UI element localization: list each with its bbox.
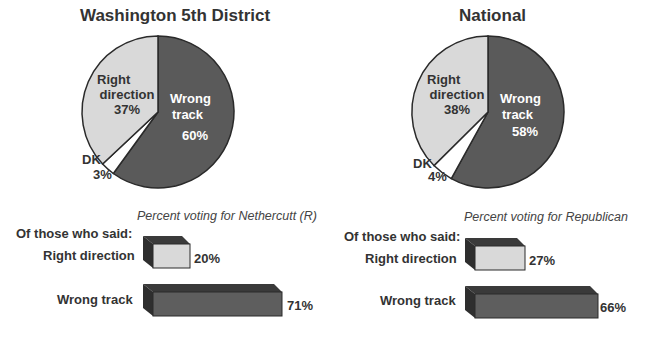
right-pie-wrong-label-1: Wrong (500, 91, 541, 106)
left-pie-dk-label: DK (82, 152, 101, 167)
pie-right (412, 36, 564, 188)
right-pie-right-label-2: direction (429, 87, 485, 102)
bar-right-right-top (465, 238, 525, 246)
left-pie-right-value: 37% (107, 102, 147, 117)
bar-left-wrong-front (153, 292, 282, 316)
right-bars-subtitle: Percent voting for Republican (464, 210, 628, 224)
right-pie-right-value: 38% (437, 102, 477, 117)
left-bar-wrong-value: 71% (287, 298, 313, 313)
bar-right-right-front (475, 246, 525, 270)
left-bars-lead: Of those who said: (16, 226, 132, 241)
pie-left (82, 36, 234, 188)
bar-left-wrong-top (143, 284, 282, 292)
left-pie-wrong-label-2: track (172, 107, 203, 122)
left-pie-right-label-1: Right (97, 72, 157, 87)
right-pie-wrong-label-2: track (502, 107, 533, 122)
right-pie-wrong-value: 58% (512, 124, 538, 139)
left-chart-title: Washington 5th District (80, 6, 270, 26)
left-bar-right-label: Right direction (43, 248, 135, 263)
bar-right-wrong-front (475, 294, 598, 318)
left-bar-right-value: 20% (194, 251, 220, 266)
left-pie-right-label-2: direction (99, 87, 155, 102)
bar-left-right-front (153, 244, 190, 268)
right-chart-title: National (459, 6, 526, 26)
left-pie-wrong-label-1: Wrong (170, 91, 211, 106)
right-pie-right-label-1: Right (427, 72, 487, 87)
right-pie-dk-value: 4% (428, 169, 447, 184)
left-pie-wrong-value: 60% (182, 128, 208, 143)
left-bar-wrong-label: Wrong track (57, 292, 133, 307)
bars-left (143, 236, 282, 316)
right-bars-lead: Of those who said: (344, 229, 460, 244)
right-bar-right-label: Right direction (365, 251, 457, 266)
right-bar-right-value: 27% (529, 253, 555, 268)
left-pie-dk-value: 3% (93, 167, 112, 182)
right-bar-wrong-value: 66% (600, 300, 626, 315)
left-bars-subtitle: Percent voting for Nethercutt (R) (137, 209, 317, 223)
bars-right (465, 238, 598, 318)
right-bar-wrong-label: Wrong track (380, 293, 456, 308)
bar-right-wrong-top (465, 286, 598, 294)
